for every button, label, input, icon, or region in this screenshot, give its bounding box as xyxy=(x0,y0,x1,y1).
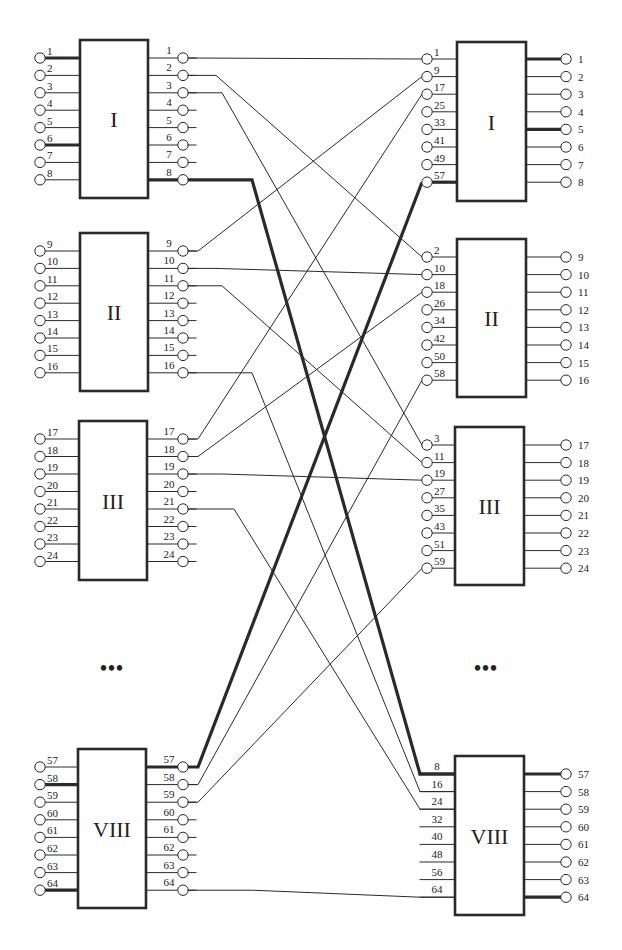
input-pin-label: 5 xyxy=(47,115,53,127)
input-terminal xyxy=(35,157,45,167)
input-pin-label: 24 xyxy=(47,549,59,561)
wire xyxy=(188,380,422,784)
output-pin-label: 64 xyxy=(164,876,176,888)
input-pin-label: 41 xyxy=(434,134,445,146)
wire xyxy=(188,77,422,251)
output-terminal xyxy=(561,142,571,152)
right-block-viii: 8571658245932604061486256636464VIII xyxy=(420,756,590,915)
output-terminal xyxy=(178,762,188,772)
input-terminal xyxy=(422,357,432,367)
output-pin-label: 14 xyxy=(164,324,176,336)
input-pin-label: 60 xyxy=(47,807,59,819)
output-terminal xyxy=(561,269,571,279)
interconnect-wires xyxy=(188,58,455,897)
output-terminal xyxy=(178,434,188,444)
input-terminal xyxy=(422,124,432,134)
input-terminal xyxy=(35,53,45,63)
input-pin-label: 64 xyxy=(47,877,59,889)
output-pin-label: 21 xyxy=(164,495,175,507)
output-terminal xyxy=(561,857,571,867)
input-pin-label: 11 xyxy=(434,450,445,462)
input-pin-label: 48 xyxy=(432,848,444,860)
input-terminal xyxy=(422,54,432,64)
block-label: VIII xyxy=(93,817,131,842)
input-terminal xyxy=(35,469,45,479)
output-terminal xyxy=(178,175,188,185)
output-pin-label: 57 xyxy=(164,753,176,765)
output-pin-label: 16 xyxy=(164,359,176,371)
input-pin-label: 63 xyxy=(47,860,59,872)
output-pin-label: 22 xyxy=(164,513,175,525)
output-terminal xyxy=(178,350,188,360)
input-pin-label: 34 xyxy=(434,314,446,326)
input-pin-label: 2 xyxy=(47,62,53,74)
output-terminal xyxy=(178,105,188,115)
input-pin-label: 50 xyxy=(434,350,446,362)
input-terminal xyxy=(422,510,432,520)
output-terminal xyxy=(561,375,571,385)
input-pin-label: 9 xyxy=(434,64,440,76)
output-terminal xyxy=(178,797,188,807)
output-pin-label: 24 xyxy=(578,562,590,574)
right-block-ii: 291010181126123413421450155816II xyxy=(422,239,590,397)
input-pin-label: 17 xyxy=(434,81,446,93)
output-pin-label: 61 xyxy=(164,823,175,835)
input-terminal xyxy=(422,142,432,152)
input-pin-label: 26 xyxy=(434,297,446,309)
output-pin-label: 19 xyxy=(164,460,176,472)
output-terminal xyxy=(178,539,188,549)
output-pin-label: 12 xyxy=(164,289,175,301)
input-pin-label: 14 xyxy=(47,325,59,337)
input-pin-label: 25 xyxy=(434,99,446,111)
output-terminal xyxy=(561,545,571,555)
input-terminal xyxy=(422,563,432,573)
input-pin-label: 20 xyxy=(47,479,59,491)
output-terminal xyxy=(561,54,571,64)
input-pin-label: 43 xyxy=(434,520,446,532)
wire xyxy=(188,509,455,809)
input-terminal xyxy=(35,298,45,308)
input-terminal xyxy=(422,305,432,315)
input-terminal xyxy=(35,451,45,461)
output-terminal xyxy=(178,140,188,150)
input-terminal xyxy=(35,850,45,860)
block-label: I xyxy=(110,107,117,132)
output-pin-label: 60 xyxy=(164,806,176,818)
output-terminal xyxy=(178,70,188,80)
output-pin-label: 6 xyxy=(578,141,584,153)
output-terminal xyxy=(561,89,571,99)
input-pin-label: 32 xyxy=(432,813,443,825)
input-pin-label: 4 xyxy=(47,97,53,109)
input-pin-label: 18 xyxy=(47,444,59,456)
input-pin-label: 19 xyxy=(47,461,59,473)
output-terminal xyxy=(561,839,571,849)
output-pin-label: 7 xyxy=(166,148,172,160)
input-terminal xyxy=(35,434,45,444)
wire xyxy=(188,373,455,792)
input-pin-label: 12 xyxy=(47,290,58,302)
input-pin-label: 9 xyxy=(47,238,53,250)
input-terminal xyxy=(422,177,432,187)
output-pin-label: 7 xyxy=(578,159,584,171)
left-block-i: 1122334455667788I xyxy=(35,40,196,198)
output-terminal xyxy=(178,281,188,291)
input-pin-label: 21 xyxy=(47,496,58,508)
output-pin-label: 16 xyxy=(578,374,590,386)
output-pin-label: 19 xyxy=(578,474,590,486)
output-terminal xyxy=(178,451,188,461)
input-terminal xyxy=(35,867,45,877)
output-pin-label: 9 xyxy=(166,237,172,249)
output-terminal xyxy=(178,246,188,256)
output-pin-label: 17 xyxy=(578,439,590,451)
input-pin-label: 62 xyxy=(47,842,58,854)
input-terminal xyxy=(422,89,432,99)
output-pin-label: 11 xyxy=(578,286,589,298)
output-pin-label: 60 xyxy=(578,821,590,833)
output-pin-label: 59 xyxy=(164,788,176,800)
left-block-viii: 57575858595960606161626263636464VIII xyxy=(35,749,196,908)
input-terminal xyxy=(422,71,432,81)
output-terminal xyxy=(178,850,188,860)
input-pin-label: 16 xyxy=(432,778,444,790)
highlighted-wire xyxy=(188,182,422,767)
input-pin-label: 10 xyxy=(47,255,59,267)
